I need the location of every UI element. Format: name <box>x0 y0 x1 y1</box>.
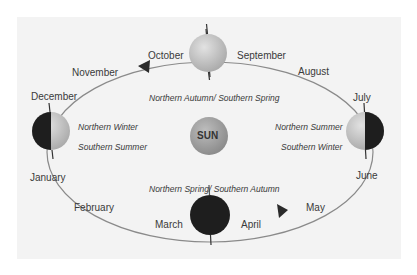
season-bottom: Northern Spring/ Southern Autumn <box>149 183 280 195</box>
month-may: May <box>306 202 325 214</box>
month-february: February <box>74 202 114 214</box>
month-october: October <box>148 50 184 62</box>
month-august: August <box>298 66 329 78</box>
month-january: January <box>30 172 66 184</box>
month-september: September <box>237 50 286 62</box>
month-november: November <box>72 67 118 79</box>
earth-right-icon <box>346 103 384 159</box>
season-top: Northern Autumn/ Southern Spring <box>149 92 280 104</box>
season-right-south: Southern Winter <box>281 141 342 153</box>
season-right-north: Northern Summer <box>275 121 343 133</box>
season-left-south: Southern Summer <box>78 141 147 153</box>
month-march: March <box>155 219 183 231</box>
sun-label: SUN <box>197 130 218 141</box>
earth-top-icon <box>189 24 227 80</box>
season-left-north: Northern Winter <box>78 121 138 133</box>
month-june: June <box>356 170 378 182</box>
month-july: July <box>353 92 371 104</box>
arrow-right-icon <box>277 204 288 218</box>
month-december: December <box>31 91 77 103</box>
month-april: April <box>241 219 261 231</box>
